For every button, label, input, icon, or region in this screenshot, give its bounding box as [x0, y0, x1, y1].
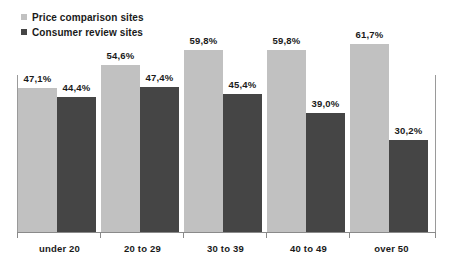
x-axis-category-label: over 50 [340, 243, 443, 254]
bar-value-label: 47,4% [136, 72, 183, 83]
bar [389, 140, 428, 232]
bar-value-label: 54,6% [97, 50, 144, 61]
bar-value-label: 59,8% [263, 35, 310, 46]
bar-value-label: 61,7% [346, 29, 393, 40]
bar [18, 88, 57, 232]
bar [306, 113, 345, 232]
bar [350, 44, 389, 232]
bar [223, 94, 262, 232]
bar [57, 97, 96, 232]
bar [267, 50, 306, 232]
bar [101, 65, 140, 232]
bar-value-label: 59,8% [180, 35, 227, 46]
bar-chart: Price comparison sites Consumer review s… [0, 0, 453, 266]
bar [184, 50, 223, 232]
bar-value-label: 39,0% [302, 98, 349, 109]
bar-value-label: 44,4% [53, 82, 100, 93]
bar-value-label: 45,4% [219, 79, 266, 90]
bar [140, 87, 179, 232]
bar-value-label: 30,2% [385, 125, 432, 136]
bar-series-layer: 47,1%44,4%54,6%47,4%59,8%45,4%59,8%39,0%… [0, 0, 453, 266]
